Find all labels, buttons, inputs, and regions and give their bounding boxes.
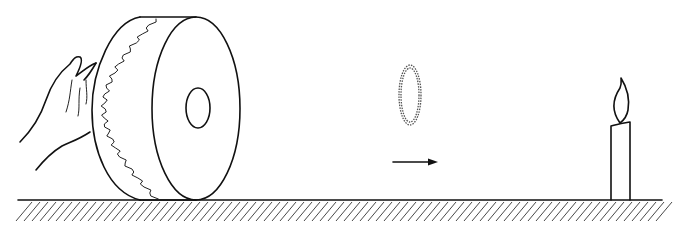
hatch-line xyxy=(64,202,80,221)
hatch-line xyxy=(72,202,88,221)
hatch-line xyxy=(576,202,592,221)
hatch-line xyxy=(440,202,456,221)
hatch-line xyxy=(208,202,224,221)
hatch-line xyxy=(552,202,568,221)
hatch-line xyxy=(280,202,296,221)
hatch-line xyxy=(584,202,600,221)
hatch-line xyxy=(656,202,672,221)
candle-flame xyxy=(614,78,629,123)
hatch-line xyxy=(104,202,120,221)
hatch-line xyxy=(216,202,232,221)
hatch-line xyxy=(192,202,208,221)
hatch-line xyxy=(240,202,256,221)
hatch-line xyxy=(288,202,304,221)
hatch-line xyxy=(360,202,376,221)
hatch-line xyxy=(352,202,368,221)
hatch-line xyxy=(600,202,616,221)
hatch-line xyxy=(544,202,560,221)
hatch-line xyxy=(640,202,656,221)
hatch-line xyxy=(80,202,96,221)
hatch-line xyxy=(496,202,512,221)
hatch-line xyxy=(472,202,488,221)
hatch-line xyxy=(272,202,288,221)
drum-front-face xyxy=(152,17,240,200)
hatch-line xyxy=(296,202,312,221)
vortex-ring xyxy=(399,65,421,125)
hatch-line xyxy=(336,202,352,221)
ground-hatching xyxy=(16,202,672,221)
hatch-line xyxy=(400,202,416,221)
hatch-line xyxy=(424,202,440,221)
hatch-line xyxy=(592,202,608,221)
drum-membrane xyxy=(101,19,158,199)
hatch-line xyxy=(56,202,72,221)
hatch-line xyxy=(312,202,328,221)
hatch-line xyxy=(512,202,528,221)
hatch-line xyxy=(392,202,408,221)
hatch-line xyxy=(560,202,576,221)
hatch-line xyxy=(144,202,160,221)
hatch-line xyxy=(344,202,360,221)
hatch-line xyxy=(448,202,464,221)
hatch-line xyxy=(16,202,32,221)
hatch-line xyxy=(384,202,400,221)
hatch-line xyxy=(304,202,320,221)
hatch-line xyxy=(32,202,48,221)
hatch-line xyxy=(488,202,504,221)
hatch-line xyxy=(24,202,40,221)
hatch-line xyxy=(520,202,536,221)
hatch-line xyxy=(648,202,664,221)
hatch-line xyxy=(632,202,648,221)
hatch-line xyxy=(96,202,112,221)
hatch-line xyxy=(328,202,344,221)
hatch-line xyxy=(624,202,640,221)
hatch-line xyxy=(416,202,432,221)
hatch-line xyxy=(168,202,184,221)
hatch-line xyxy=(432,202,448,221)
hatch-line xyxy=(256,202,272,221)
ground xyxy=(16,200,672,221)
hatch-line xyxy=(224,202,240,221)
hatch-line xyxy=(368,202,384,221)
hatch-line xyxy=(608,202,624,221)
hatch-line xyxy=(456,202,472,221)
hatch-line xyxy=(408,202,424,221)
candle-body xyxy=(611,122,630,200)
vortex-diagram xyxy=(0,0,676,233)
hatch-line xyxy=(136,202,152,221)
drum-aperture xyxy=(186,88,210,128)
hatch-line xyxy=(320,202,336,221)
hatch-line xyxy=(40,202,56,221)
hatch-line xyxy=(536,202,552,221)
hatch-line xyxy=(160,202,176,221)
hatch-line xyxy=(176,202,192,221)
hatch-line xyxy=(264,202,280,221)
hatch-line xyxy=(528,202,544,221)
hatch-line xyxy=(48,202,64,221)
hatch-line xyxy=(200,202,216,221)
hatch-line xyxy=(232,202,248,221)
hatch-line xyxy=(464,202,480,221)
hand-icon xyxy=(20,57,96,170)
hatch-line xyxy=(184,202,200,221)
hatch-line xyxy=(112,202,128,221)
hatch-line xyxy=(568,202,584,221)
hatch-line xyxy=(152,202,168,221)
hatch-line xyxy=(120,202,136,221)
arrow-right-icon xyxy=(393,159,438,166)
vortex-ring-inner xyxy=(401,68,419,122)
hatch-line xyxy=(480,202,496,221)
hatch-line xyxy=(504,202,520,221)
hatch-line xyxy=(616,202,632,221)
hatch-line xyxy=(88,202,104,221)
hatch-line xyxy=(376,202,392,221)
candle-icon xyxy=(611,78,630,200)
hatch-line xyxy=(128,202,144,221)
hatch-line xyxy=(248,202,264,221)
drum xyxy=(92,17,240,200)
